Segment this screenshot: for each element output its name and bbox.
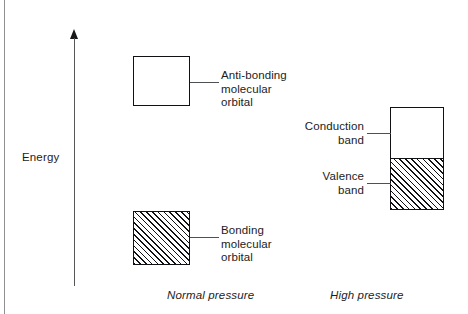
energy-axis-line [74,38,75,286]
figure-left-rule [4,0,5,314]
energy-band-diagram: Energy Anti-bonding molecular orbital Bo… [0,0,468,314]
energy-axis-label: Energy [22,151,59,163]
normal-pressure-caption: Normal pressure [167,289,254,301]
valence-band-box [390,158,444,210]
antibonding-leader-line [190,82,219,83]
conduction-band-leader-line [367,133,391,134]
valence-band-label: Valence band [323,170,364,197]
valence-band-leader-line [367,183,391,184]
high-pressure-caption: High pressure [330,289,404,301]
bonding-orbital-box [133,211,190,265]
bonding-orbital-label: Bonding molecular orbital [221,224,272,265]
conduction-band-label: Conduction band [305,120,364,147]
conduction-band-box [390,107,444,159]
bonding-leader-line [190,237,219,238]
antibonding-orbital-box [133,56,190,106]
antibonding-orbital-label: Anti-bonding molecular orbital [221,69,287,110]
